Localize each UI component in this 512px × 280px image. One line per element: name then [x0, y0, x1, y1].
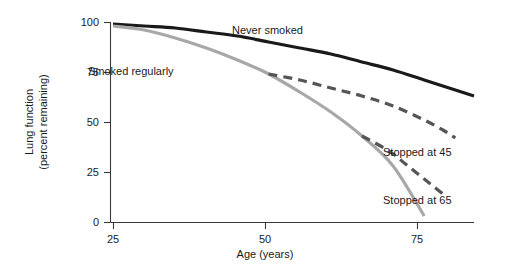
- x-tick-label-75: 75: [411, 233, 423, 245]
- x-tick-label-25: 25: [107, 233, 119, 245]
- annotation-smoked-regularly: Smoked regularly: [88, 65, 174, 77]
- y-axis-ticks: [104, 23, 111, 223]
- chart-svg: 100 75 50 25 0 25 50 75 Age (years) Lung…: [0, 0, 512, 280]
- y-tick-label-100: 100: [81, 16, 99, 28]
- y-tick-label-25: 25: [87, 166, 99, 178]
- x-axis-title: Age (years): [237, 248, 294, 260]
- annotation-stopped-at-45: Stopped at 45: [383, 146, 452, 158]
- lung-function-chart: 100 75 50 25 0 25 50 75 Age (years) Lung…: [0, 0, 512, 280]
- series-line-smoked-regularly: [113, 26, 424, 216]
- y-axis-title-line2: (percent remaining): [37, 74, 49, 169]
- y-axis-title-line1: Lung function: [23, 89, 35, 155]
- series-line-stopped-at-45: [269, 74, 456, 138]
- series-layer: [113, 24, 474, 216]
- x-tick-label-50: 50: [259, 233, 271, 245]
- y-tick-label-50: 50: [87, 116, 99, 128]
- x-axis-ticks: [114, 223, 418, 230]
- annotation-stopped-at-65: Stopped at 65: [383, 194, 452, 206]
- annotation-never-smoked: Never smoked: [232, 24, 303, 36]
- y-tick-label-0: 0: [93, 216, 99, 228]
